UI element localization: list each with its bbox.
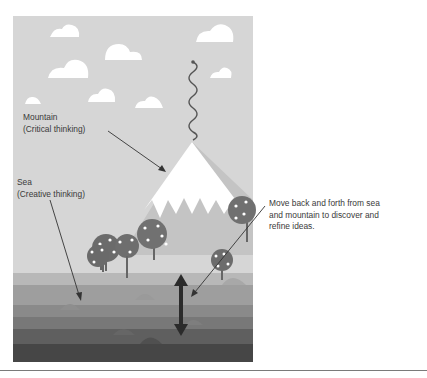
mountain-label-subtitle: (Critical thinking) xyxy=(23,124,85,136)
sea-label-title: Sea xyxy=(17,177,85,189)
note-line-1: Move back and forth from sea xyxy=(269,198,380,210)
note-label: Move back and forth from sea and mountai… xyxy=(269,198,380,233)
note-line-2: and mountain to discover and xyxy=(269,210,380,222)
mountain-label-title: Mountain xyxy=(23,112,85,124)
divider xyxy=(0,370,427,371)
mountain-label: Mountain (Critical thinking) xyxy=(23,112,85,135)
sea-layers xyxy=(13,273,253,362)
note-line-3: refine ideas. xyxy=(269,221,380,233)
squiggle-dot xyxy=(191,60,195,64)
sea-label-subtitle: (Creative thinking) xyxy=(17,189,85,201)
sea-label: Sea (Creative thinking) xyxy=(17,177,85,200)
